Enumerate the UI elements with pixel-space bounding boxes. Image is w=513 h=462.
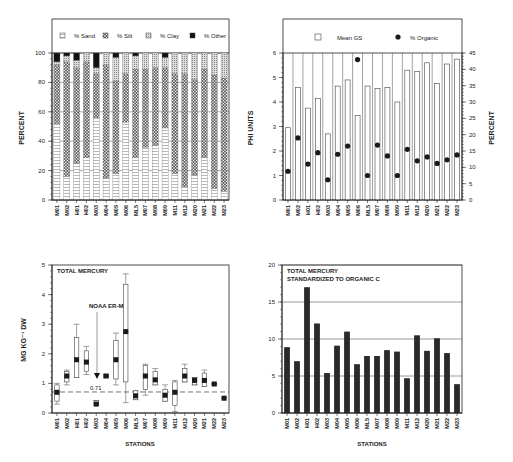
station-label: M07: [142, 418, 148, 429]
bar-segment-sand: [152, 146, 158, 200]
station-label: M21: [434, 205, 440, 216]
mean-gs-organic-chart: 0123456051015202530354045M01M02H01H02M03…: [273, 19, 477, 216]
station-label: M12: [182, 205, 188, 216]
bar-segment-silt: [93, 74, 99, 118]
mercury-bar: [454, 384, 460, 413]
bar-segment-clay: [54, 62, 60, 65]
median-marker: [143, 374, 148, 379]
station-label: M20: [424, 205, 430, 216]
bar-segment-other: [74, 53, 80, 60]
mean-gs-bar: [345, 80, 350, 200]
organic-dot: [454, 152, 459, 157]
station-label: M02: [64, 205, 70, 216]
organic-dot: [305, 161, 310, 166]
station-label: ML5: [133, 418, 139, 429]
station-label: M06: [354, 418, 360, 429]
bar-segment-silt: [133, 69, 139, 157]
median-marker: [123, 329, 128, 334]
bar-segment-clay: [182, 53, 188, 74]
y-tick-label: 5: [272, 373, 276, 379]
legend-label: % Sand: [74, 33, 95, 39]
station-label: M02: [294, 418, 300, 429]
station-label: M07: [142, 205, 148, 216]
station-label: M20: [192, 418, 198, 429]
station-label: M20: [192, 205, 198, 216]
tr-y2-axis-label: PERCENT: [488, 111, 495, 145]
mercury-bar: [414, 335, 420, 413]
mercury-bar: [354, 364, 360, 413]
bar-segment-sand: [172, 174, 178, 200]
y-tick-label: 3: [42, 321, 46, 327]
y-tick-label: 5: [42, 262, 46, 268]
y-tick-label: 4: [273, 99, 277, 105]
legend-swatch-organic: [395, 34, 400, 39]
legend-swatch: [146, 33, 151, 38]
bar-segment-clay: [83, 53, 89, 62]
mean-gs-bar: [305, 108, 310, 200]
median-marker: [212, 381, 217, 386]
station-label: M05: [113, 205, 119, 216]
station-label: H01: [74, 418, 80, 428]
y-tick-label: 3: [273, 124, 277, 130]
mean-gs-bar: [405, 70, 410, 200]
tl-y-axis-label: PERCENT: [18, 111, 25, 145]
bar-segment-clay: [152, 53, 158, 68]
bar-segment-other: [162, 53, 168, 57]
bl-y-axis-label: MG KG⁻¹ DW: [20, 318, 27, 362]
bar-segment-silt: [113, 81, 119, 174]
median-marker: [222, 396, 227, 401]
station-label: M06: [123, 418, 129, 429]
y-tick-label: 0: [42, 197, 46, 203]
y-tick-label: 1: [273, 173, 277, 179]
y-tick-label: 0: [272, 410, 276, 416]
station-label: ML5: [364, 418, 370, 429]
bar-segment-clay: [211, 53, 217, 75]
organic-dot: [355, 57, 360, 62]
station-label: M02: [295, 205, 301, 216]
y-tick-label: 20: [469, 132, 476, 138]
mean-gs-bar: [445, 64, 450, 200]
organic-dot: [315, 150, 320, 155]
bar-segment-clay: [93, 68, 99, 74]
bar-segment-silt: [221, 78, 227, 191]
y-tick-label: 2: [273, 148, 277, 154]
bar-segment-silt: [142, 69, 148, 147]
bar-segment-sand: [93, 118, 99, 200]
station-label: M01: [54, 205, 60, 216]
bar-segment-silt: [211, 75, 217, 188]
figure-canvas: 020406080100M01M02H01H02M03M04M05M06ML5M…: [0, 0, 513, 462]
mean-gs-bar: [315, 98, 320, 200]
station-label: H02: [83, 205, 89, 215]
bar-segment-clay: [172, 53, 178, 74]
station-label: M01: [284, 418, 290, 429]
station-label: M22: [211, 205, 217, 216]
reference-arrow-head: [94, 373, 100, 379]
bar-segment-sand: [74, 163, 80, 200]
mean-gs-bar: [415, 71, 420, 200]
bar-segment-sand: [103, 178, 109, 200]
organic-dot: [435, 161, 440, 166]
legend-swatch-mean-gs: [315, 34, 321, 40]
bar-segment-silt: [192, 79, 198, 175]
bar-segment-silt: [162, 68, 168, 128]
bar-segment-sand: [182, 187, 188, 200]
organic-dot: [325, 177, 330, 182]
station-label: M02: [64, 418, 70, 429]
y-tick-label: 80: [38, 79, 45, 85]
bar-segment-silt: [64, 62, 70, 177]
median-marker: [133, 393, 138, 398]
station-label: M07: [374, 418, 380, 429]
y-tick-label: 0: [469, 197, 473, 203]
station-label: M11: [404, 418, 410, 428]
br-chart-title-line1: TOTAL MERCURY: [287, 268, 338, 274]
mean-gs-bar: [355, 115, 360, 200]
mercury-bar: [304, 287, 310, 413]
median-marker: [153, 377, 158, 382]
br-x-axis-label: STATIONS: [357, 441, 386, 447]
station-label: M04: [335, 204, 341, 216]
mean-gs-bar: [425, 63, 430, 200]
station-label: H02: [83, 418, 89, 428]
mercury-bar: [384, 350, 390, 413]
bar-segment-silt: [182, 74, 188, 187]
station-label: M09: [394, 418, 400, 429]
